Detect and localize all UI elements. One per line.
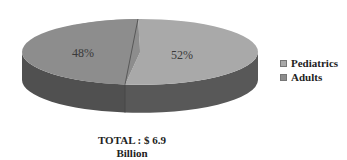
legend-item-adults: Adults (280, 70, 338, 84)
total-line-1: TOTAL : $ 6.9 (97, 134, 167, 147)
pediatrics-pct-label: 52% (171, 48, 193, 62)
total-line-2: Billion (97, 147, 167, 160)
legend: Pediatrics Adults (280, 56, 338, 84)
legend-label-adults: Adults (291, 71, 322, 83)
pediatrics-swatch-icon (280, 60, 287, 67)
total-annotation: TOTAL : $ 6.9 Billion (97, 134, 167, 160)
adults-swatch-icon (280, 74, 287, 81)
legend-item-pediatrics: Pediatrics (280, 56, 338, 70)
adults-pct-label: 48% (72, 46, 94, 60)
legend-label-pediatrics: Pediatrics (291, 57, 338, 69)
